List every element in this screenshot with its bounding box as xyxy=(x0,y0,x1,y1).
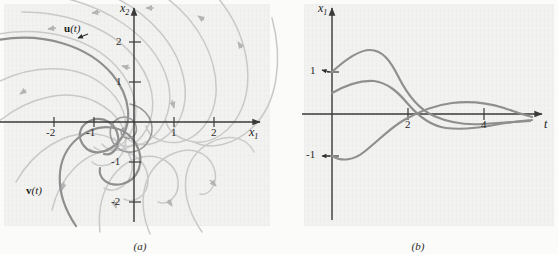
x-tick-label--1: -1 xyxy=(86,126,95,138)
x1-tick-label-1: 1 xyxy=(310,64,316,76)
direction-arrow xyxy=(48,28,56,29)
y-tick-label--2: -2 xyxy=(111,195,120,207)
panel-a-caption: (a) xyxy=(0,240,280,252)
x-tick-label--2: -2 xyxy=(46,126,55,138)
phase-portrait-plot-area: -2 -1 1 2 2 1 -1 -2 x2 x1 u(t) v(t) xyxy=(4,4,270,226)
figure-container: -2 -1 1 2 2 1 -1 -2 x2 x1 u(t) v(t) (a) xyxy=(0,0,558,254)
solution-curve-3 xyxy=(332,102,532,159)
x-tick-label-2: 2 xyxy=(211,126,217,138)
y-tick-label-2: 2 xyxy=(116,35,122,47)
direction-arrow xyxy=(198,16,204,20)
direction-arrow xyxy=(92,12,100,13)
x-tick-label-1: 1 xyxy=(171,126,177,138)
time-series-svg xyxy=(304,4,554,226)
direction-arrow xyxy=(122,66,130,68)
panel-a: -2 -1 1 2 2 1 -1 -2 x2 x1 u(t) v(t) (a) xyxy=(0,0,280,254)
phase-portrait-svg xyxy=(4,4,270,226)
panel-b-caption: (b) xyxy=(278,240,558,252)
time-series-plot-area: 2 4 1 -1 x1 t xyxy=(304,4,554,226)
direction-arrow xyxy=(238,42,242,48)
y-axis-label-x2: x2 xyxy=(120,1,129,17)
trajectory-faint-13 xyxy=(143,150,215,234)
t-axis-label: t xyxy=(544,117,547,132)
trajectory-faint-8 xyxy=(0,69,125,153)
panel-b: 2 4 1 -1 x1 t (b) xyxy=(278,0,558,254)
x1-tick-label--1: -1 xyxy=(306,148,315,160)
x1-label-leader-1 xyxy=(322,70,330,72)
y-axis-label-x1: x1 xyxy=(318,1,327,17)
curve-label-u: u(t) xyxy=(64,22,81,34)
direction-arrow xyxy=(20,90,26,94)
solution-curve-2 xyxy=(332,81,532,129)
t-tick-label-2: 2 xyxy=(405,118,411,130)
solution-curve-1 xyxy=(332,50,530,124)
curve-label-v: v(t) xyxy=(26,184,42,196)
trajectory-faint-1 xyxy=(0,32,136,152)
faint-trajectory-arrows xyxy=(20,8,242,208)
u-label-leader xyxy=(78,34,88,38)
x-axis-label-x1: x1 xyxy=(249,125,258,141)
y-tick-label-1: 1 xyxy=(116,75,122,87)
trajectory-faint-5 xyxy=(146,0,216,143)
y-tick-label--1: -1 xyxy=(111,155,120,167)
faint-trajectories-group xyxy=(0,0,278,234)
direction-arrow xyxy=(172,100,174,108)
t-tick-label-4: 4 xyxy=(481,118,487,130)
trajectory-faint-7 xyxy=(194,18,278,146)
